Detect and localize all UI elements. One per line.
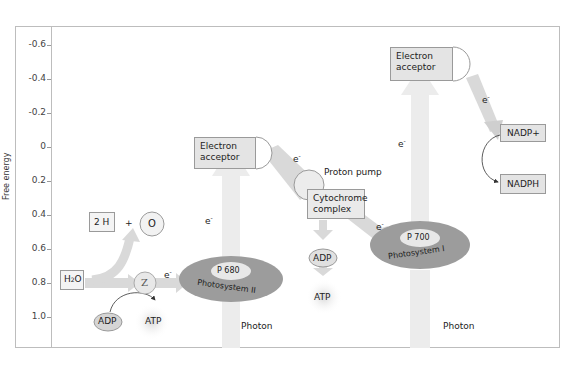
adp-left-label: ADP bbox=[98, 316, 117, 326]
acceptor-1-line2: acceptor bbox=[200, 152, 250, 163]
electron-acceptor-2: Electron acceptor bbox=[390, 47, 453, 81]
photon-beam-ps2 bbox=[212, 146, 250, 348]
adp-mid-label: ADP bbox=[313, 253, 332, 263]
plus-sign: + bbox=[125, 218, 133, 228]
proton-pump-label: Proton pump bbox=[324, 167, 382, 177]
p680-label: P 680 bbox=[217, 266, 240, 275]
acceptor2-cap bbox=[453, 47, 470, 81]
oxygen-label: O bbox=[148, 218, 156, 229]
nadph-box: NADPH bbox=[500, 174, 546, 194]
acceptor-2-line2: acceptor bbox=[396, 62, 447, 73]
acceptor-1-line1: Electron bbox=[200, 141, 250, 152]
arrow-nadp-nadph bbox=[482, 135, 500, 182]
atp-left-label: ATP bbox=[145, 316, 161, 326]
atp-mid-label: ATP bbox=[314, 292, 330, 302]
photon-left-label: Photon bbox=[241, 321, 272, 331]
cytochrome-complex-box: Cytochrome complex bbox=[307, 189, 365, 219]
photon-right-label: Photon bbox=[443, 321, 474, 331]
electron-label-acceptor1: e- bbox=[293, 152, 301, 164]
photon-beam-ps1 bbox=[401, 66, 439, 348]
electron-label-ps1: e- bbox=[398, 137, 406, 149]
electron-label-ps2: e- bbox=[205, 214, 213, 226]
diagram-graphics bbox=[0, 0, 575, 366]
acceptor-2-line1: Electron bbox=[396, 51, 447, 62]
two-h-box: 2 H bbox=[89, 212, 115, 232]
electron-label-cytochrome: e- bbox=[376, 220, 384, 232]
nadp-plus-box: NADP+ bbox=[500, 124, 546, 142]
electron-label-z-ps2: e- bbox=[164, 268, 172, 280]
acceptor1-cap bbox=[256, 137, 272, 169]
electron-acceptor-1: Electron acceptor bbox=[194, 137, 256, 169]
arrow-split-water bbox=[92, 238, 130, 280]
h2o-box: H2O bbox=[60, 270, 84, 290]
cytochrome-line2: complex bbox=[313, 204, 359, 215]
cytochrome-line1: Cytochrome bbox=[313, 193, 359, 204]
electron-label-acceptor2: e- bbox=[482, 93, 490, 105]
p700-label: P 700 bbox=[407, 233, 430, 242]
z-label: Z bbox=[141, 277, 148, 288]
